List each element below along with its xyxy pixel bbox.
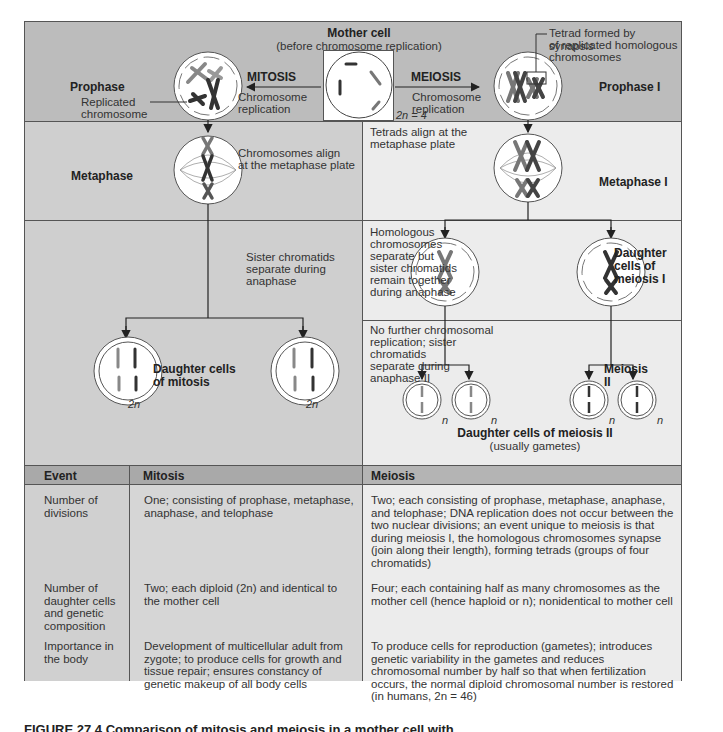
meiosis-anaphase-note: separate but (370, 250, 434, 263)
table-header-event: Event (44, 469, 77, 483)
mitosis-arrow-sublabel: Chromosome (238, 91, 307, 104)
metaphase-label: Metaphase (71, 170, 133, 183)
mother-cell-title: Mother cell (259, 27, 459, 40)
table-cell-mitosis: Development of multicellular adult from … (144, 640, 356, 690)
table-cell-mitosis: One; consisting of prophase, metaphase, … (144, 494, 356, 519)
ploidy-label: 2n (128, 398, 140, 411)
metaphase-i-note: Tetrads align at the (370, 126, 467, 139)
table-cell-meiosis: Two; each consisting of prophase, metaph… (371, 494, 675, 569)
mitosis-daughter-cell-left (94, 337, 162, 405)
mother-cell-subtitle: (before chromosome replication) (249, 40, 469, 53)
anaphase-note: separate during (246, 263, 326, 276)
figure-frame: Mother cell (before chromosome replicati… (24, 21, 682, 681)
mitosis-arrow-label: MITOSIS (247, 71, 296, 84)
anaphase-note: Sister chromatids (246, 251, 335, 264)
meiosis-anaphase-note: chromosomes (370, 238, 442, 251)
divider (129, 465, 130, 681)
meiosis2-daughter-cell-3 (570, 381, 608, 419)
table-header-meiosis: Meiosis (371, 469, 415, 483)
replicated-chromosome-label: chromosome (81, 108, 147, 121)
mitosis-daughter-label: of mitosis (153, 376, 210, 389)
prophase-i-label: Prophase I (599, 81, 660, 94)
tetrad-note: of replicated homologous (549, 39, 678, 52)
ploidy-label: n (609, 414, 615, 427)
table-cell-meiosis: To produce cells for reproduction (gamet… (371, 640, 675, 703)
ploidy-label: n (442, 414, 448, 427)
meiosis2-note: separate during (370, 360, 450, 373)
mitosis-daughter-label: Daughter cells (153, 363, 236, 376)
meiosis-anaphase-note: during anaphase (370, 286, 456, 299)
table-cell-meiosis: Four; each containing half as many chrom… (371, 582, 675, 607)
table-cell-mitosis: Two; each diploid (2n) and identical to … (144, 582, 356, 607)
ploidy-label: n (657, 414, 663, 427)
meiosis-arrow-sublabel: Chromosome (412, 91, 481, 104)
tetrad-note: chromosomes (549, 51, 621, 64)
meiosis1-daughter-label: Daughter (614, 247, 667, 260)
mitosis-daughter-cell-right (271, 337, 339, 405)
meiosis-arrow-sublabel: replication (412, 103, 464, 116)
metaphase-note: at the metaphase plate (238, 159, 355, 172)
meiosis-arrow-label: MEIOSIS (411, 71, 461, 84)
meiosis-anaphase-note: remain together (370, 274, 451, 287)
meiosis1-daughter-label: meiosis I (614, 273, 665, 286)
meiosis2-daughter-cell-2 (452, 381, 490, 419)
meiosis-anaphase-note: Homologous (370, 226, 435, 239)
meiosis2-note: anaphase II (370, 372, 430, 385)
prophase-label: Prophase (70, 81, 125, 94)
ploidy-label: n (491, 414, 497, 427)
replicated-chromosome-label: Replicated (81, 96, 135, 109)
table-cell-event: Number of divisions (44, 494, 124, 519)
meiosis2-daughter-label: Daughter cells of meiosis II (425, 427, 645, 440)
ploidy-label: 2n (306, 398, 318, 411)
metaphase-note: Chromosomes align (238, 147, 340, 160)
table-cell-event: Importance in the body (44, 640, 124, 665)
anaphase-note: anaphase (246, 275, 297, 288)
divider (362, 465, 363, 681)
mitosis-arrow-sublabel: replication (238, 103, 290, 116)
meiosis2-daughter-cell-1 (403, 381, 441, 419)
meiosis2-daughter-sublabel: (usually gametes) (425, 440, 645, 453)
meiosis2-note: replication; sister (370, 336, 456, 349)
meiosis2-note: No further chromosomal (370, 324, 493, 337)
table-cell-event: Number of daughter cells and genetic com… (44, 582, 124, 632)
meiosis1-daughter-label: cells of (614, 260, 655, 273)
meiosis2-label: Meiosis II (604, 363, 648, 388)
table-header-mitosis: Mitosis (143, 469, 184, 483)
meiosis2-note: chromatids (370, 348, 426, 361)
figure-caption: FIGURE 27.4 Comparison of mitosis and me… (24, 722, 454, 732)
metaphase-i-note: metaphase plate (370, 138, 455, 151)
meiosis-anaphase-note: sister chromatids (370, 262, 457, 275)
metaphase-i-label: Metaphase I (599, 176, 668, 189)
